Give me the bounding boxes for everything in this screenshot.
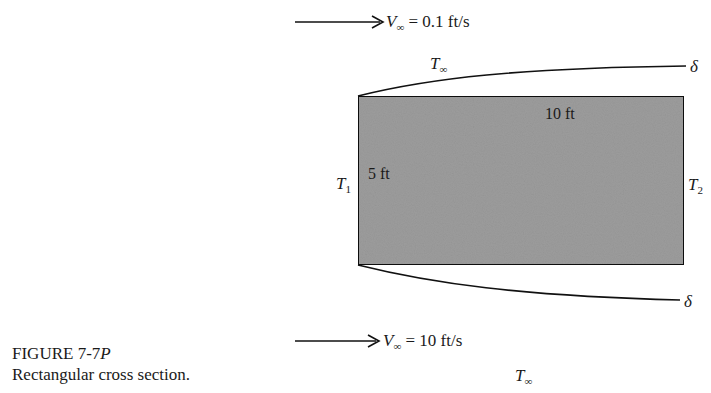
rectangular-body: [358, 96, 684, 265]
bottom-velocity-label: V∞ = 10 ft/s: [383, 332, 462, 352]
temperature-subscript: 2: [697, 184, 703, 196]
velocity-value: = 10 ft/s: [401, 331, 462, 350]
top-flow-arrow-icon: [295, 16, 383, 28]
top-boundary-layer-curve: [358, 66, 686, 96]
velocity-symbol: V: [386, 12, 396, 31]
right-surface-temperature: T2: [688, 176, 703, 196]
bottom-boundary-layer-curve: [358, 265, 680, 300]
temperature-subscript: 1: [345, 183, 351, 195]
figure-number-suffix: P: [100, 344, 110, 363]
top-free-stream-temperature: T∞: [430, 55, 447, 75]
velocity-value: = 0.1 ft/s: [404, 12, 469, 31]
bottom-flow-arrow-icon: [295, 335, 379, 347]
figure-number: FIGURE 7-7P: [12, 343, 190, 364]
temperature-subscript: ∞: [524, 375, 532, 387]
figure-caption-text: Rectangular cross section.: [12, 364, 190, 385]
temperature-subscript: ∞: [439, 63, 447, 75]
diagram-canvas: [0, 0, 711, 393]
velocity-symbol: V: [383, 331, 393, 350]
left-surface-temperature: T1: [336, 175, 351, 195]
width-dimension-label: 10 ft: [545, 106, 575, 122]
top-velocity-label: V∞ = 0.1 ft/s: [386, 13, 470, 33]
top-boundary-layer-label: δ: [690, 58, 698, 75]
height-dimension-label: 5 ft: [368, 166, 390, 182]
figure-number-prefix: FIGURE 7-7: [12, 344, 100, 363]
bottom-free-stream-temperature: T∞: [515, 367, 532, 387]
figure-caption: FIGURE 7-7P Rectangular cross section.: [12, 343, 190, 385]
bottom-boundary-layer-label: δ: [684, 293, 692, 310]
